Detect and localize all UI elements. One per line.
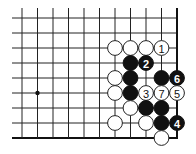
star-point <box>35 91 39 95</box>
white-stone <box>154 131 169 146</box>
board-grid <box>12 8 178 138</box>
move-number-label: 6 <box>174 73 180 85</box>
move-number-label: 4 <box>174 118 181 130</box>
stones: 1263754 <box>108 41 185 146</box>
move-number-label: 1 <box>158 43 164 55</box>
black-stone <box>154 101 169 116</box>
move-number-label: 2 <box>143 58 149 70</box>
black-stone <box>154 71 169 86</box>
black-stone-move-2: 2 <box>139 56 154 71</box>
go-board: 1263754 <box>0 0 196 154</box>
black-stone <box>123 86 138 101</box>
white-stone-move-3: 3 <box>139 86 154 101</box>
black-stone <box>123 71 138 86</box>
black-stone <box>123 56 138 71</box>
white-stone-move-1: 1 <box>154 41 169 56</box>
white-stone-move-7: 7 <box>154 86 169 101</box>
white-stone <box>123 41 138 56</box>
move-number-label: 3 <box>143 88 149 100</box>
white-stone <box>139 116 154 131</box>
white-stone <box>123 101 138 116</box>
star-points <box>35 91 39 95</box>
black-stone-move-6: 6 <box>170 71 185 86</box>
white-stone-move-5: 5 <box>170 86 185 101</box>
white-stone <box>108 41 123 56</box>
black-stone-move-4: 4 <box>170 116 185 131</box>
white-stone <box>139 41 154 56</box>
white-stone <box>108 86 123 101</box>
black-stone <box>154 116 169 131</box>
white-stone <box>108 71 123 86</box>
move-number-label: 5 <box>174 88 180 100</box>
white-stone <box>108 116 123 131</box>
black-stone <box>139 101 154 116</box>
move-number-label: 7 <box>158 88 164 100</box>
